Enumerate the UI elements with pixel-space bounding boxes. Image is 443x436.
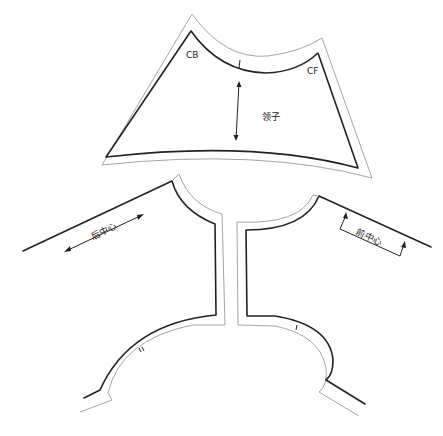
cf-label: CF: [307, 66, 318, 76]
front-armhole-notch: [296, 325, 297, 330]
pattern-diagram: CB CF 领子 后中心 前中心: [0, 0, 443, 436]
collar-stitch-line: [106, 31, 358, 168]
collar-grainline-arrow: [234, 81, 242, 141]
collar-name-label: 领子: [262, 111, 280, 122]
collar-notch-mark: [239, 60, 240, 68]
front-shoulder-cut: [313, 195, 319, 196]
back-armhole-notch-2: [142, 347, 144, 351]
back-shoulder-cut: [172, 174, 179, 181]
back-armhole-notch-1: [139, 348, 141, 352]
front-bodice-piece: 前中心: [237, 195, 431, 416]
back-bodice-piece: 后中心: [23, 174, 225, 412]
back-center-label: 后中心: [89, 220, 118, 241]
back-cut-line: [80, 174, 225, 412]
cb-label: CB: [186, 50, 198, 60]
front-stitch-line: [246, 196, 365, 404]
collar-piece: CB CF 领子: [102, 14, 372, 178]
front-center-label: 前中心: [355, 226, 384, 247]
